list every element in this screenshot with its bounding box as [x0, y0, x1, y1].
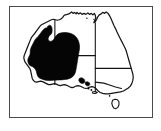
figure-root: [0, 0, 161, 131]
kangaroo-island-outline: [92, 91, 97, 93]
gulf-islet-2: [93, 19, 94, 20]
range-dot-southcoast-2: [90, 89, 92, 91]
gulf-islet-1: [86, 18, 87, 19]
australia-distribution-map: [10, 7, 152, 117]
map-frame: [9, 6, 153, 118]
bass-strait-islet: [109, 95, 111, 97]
tasmania-outline: [112, 99, 119, 108]
range-dot-southcoast: [87, 87, 89, 89]
shaded-range-northwest-lobe: [46, 25, 52, 35]
